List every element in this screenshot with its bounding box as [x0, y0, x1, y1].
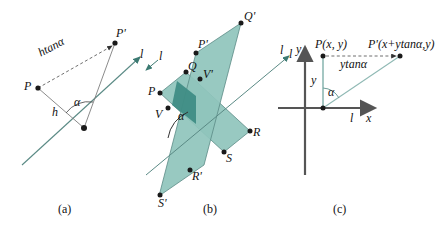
panel-a-label-l: l [140, 48, 143, 60]
panel-b-line-l-left [146, 60, 158, 70]
panel-b-label-S: S [226, 152, 232, 164]
caption-c: (c) [333, 203, 346, 215]
panel-c-label-alpha: α [328, 86, 334, 98]
figure-vector-graphics [0, 0, 446, 230]
panel-b-point-P-prime [194, 51, 199, 56]
panel-c-point-origin-foot [321, 106, 326, 111]
panel-a-segment-to-p-prime [84, 43, 115, 128]
panel-a-label-h: h [52, 106, 58, 118]
panel-a-line-l [22, 57, 140, 165]
panel-b-label-l-right: l [289, 48, 292, 60]
panel-b-graphics [146, 21, 289, 198]
panel-b-label-R-prime: R' [192, 170, 202, 182]
panel-b-point-R [248, 129, 253, 134]
caption-a: (a) [58, 203, 71, 215]
panel-a-point-P-prime [112, 40, 117, 45]
panel-b-point-V-prime [198, 77, 203, 82]
panel-a-point-P [35, 85, 40, 90]
panel-c-label-l-axis: l [350, 112, 353, 124]
panel-b-label-S-prime: S' [158, 197, 167, 209]
panel-a-graphics [22, 40, 140, 165]
panel-b-point-V [166, 106, 171, 111]
panel-c-label-point-P-prime: P'(x+ytanα,y) [368, 38, 435, 50]
panel-b-label-alpha: α [178, 110, 184, 122]
panel-b-label-l-left: l [159, 50, 162, 62]
panel-b-point-Q-prime [239, 21, 244, 26]
panel-a-point-foot [81, 125, 87, 131]
panel-c-label-point-P: P(x, y) [315, 38, 347, 50]
panel-b-label-Q: Q [188, 60, 197, 72]
panel-b-point-P [158, 91, 163, 96]
panel-b-label-V-prime: V' [203, 68, 213, 80]
caption-b: (b) [203, 203, 217, 215]
panel-b-label-P-prime: P' [198, 38, 208, 50]
panel-c-label-x-axis: x [366, 112, 371, 124]
panel-c-point-P [321, 54, 326, 59]
panel-c-label-l-left: l [280, 44, 283, 56]
panel-b-label-P: P [148, 85, 155, 97]
panel-b-label-R: R [253, 126, 260, 138]
panel-a-label-P-prime: P' [116, 27, 126, 39]
panel-c-label-ytan-alpha: ytanα [340, 58, 367, 70]
panel-a-label-P: P [24, 80, 31, 92]
panel-a-label-alpha: α [74, 96, 80, 108]
panel-c-point-P-prime [398, 54, 403, 59]
panel-c-label-y-side: y [311, 74, 316, 86]
panel-c-label-y-axis: y [296, 43, 301, 55]
panel-b-label-Q-prime: Q' [244, 10, 255, 22]
panel-b-label-V: V [155, 108, 162, 120]
shear-transformation-figure: P P' h htanα α l P Q V R S P' Q' V' R' S… [0, 0, 446, 230]
